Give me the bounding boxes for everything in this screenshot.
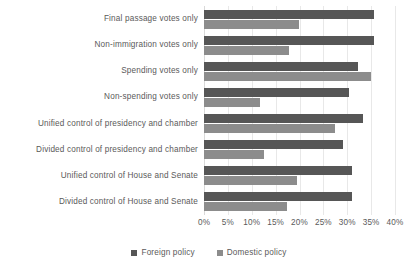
x-tick-label: 5%	[222, 218, 234, 227]
y-axis-category-labels: Final passage votes onlyNon-immigration …	[0, 6, 198, 215]
category-label: Unified control of presidency and chambe…	[0, 111, 198, 137]
bar-domestic-policy	[204, 72, 371, 81]
bar-group	[204, 111, 395, 137]
bar-domestic-policy	[204, 176, 297, 185]
x-tick-label: 30%	[339, 218, 356, 227]
bar-domestic-policy	[204, 202, 287, 211]
category-label: Final passage votes only	[0, 6, 198, 32]
category-label: Non-spending votes only	[0, 84, 198, 110]
bar-domestic-policy	[204, 150, 264, 159]
category-label: Divided control of House and Senate	[0, 189, 198, 215]
bar-foreign-policy	[204, 166, 352, 175]
bar-group	[204, 137, 395, 163]
bar-foreign-policy	[204, 36, 374, 45]
x-tick-label: 10%	[243, 218, 260, 227]
x-axis-tick-labels: 0%5%10%15%20%25%30%35%40%	[204, 218, 395, 232]
legend-swatch-icon	[217, 250, 223, 256]
bar-domestic-policy	[204, 20, 299, 29]
category-label: Spending votes only	[0, 58, 198, 84]
bar-domestic-policy	[204, 98, 260, 107]
x-tick-label: 0%	[198, 218, 210, 227]
x-tick-label: 40%	[387, 218, 404, 227]
category-label: Divided control of presidency and chambe…	[0, 137, 198, 163]
legend-label: Domestic policy	[227, 248, 287, 257]
plot-area	[204, 6, 395, 215]
bar-group	[204, 32, 395, 58]
bar-foreign-policy	[204, 62, 358, 71]
x-tick-label: 25%	[315, 218, 332, 227]
x-tick-label: 15%	[267, 218, 284, 227]
bar-group	[204, 163, 395, 189]
bar-rows	[204, 6, 395, 215]
gridline-40%	[395, 6, 396, 215]
bar-group	[204, 58, 395, 84]
bar-foreign-policy	[204, 140, 343, 149]
bar-foreign-policy	[204, 10, 374, 19]
x-tick-label: 20%	[291, 218, 308, 227]
bar-chart: Final passage votes onlyNon-immigration …	[0, 0, 418, 274]
bar-domestic-policy	[204, 46, 289, 55]
x-tick-label: 35%	[363, 218, 380, 227]
chart-legend: Foreign policyDomestic policy	[0, 248, 418, 257]
bar-foreign-policy	[204, 192, 352, 201]
bar-group	[204, 189, 395, 215]
legend-swatch-icon	[131, 250, 137, 256]
bar-group	[204, 84, 395, 110]
category-label: Non-immigration votes only	[0, 32, 198, 58]
legend-label: Foreign policy	[141, 248, 194, 257]
bar-domestic-policy	[204, 124, 335, 133]
bar-foreign-policy	[204, 88, 349, 97]
legend-item-foreign-policy[interactable]: Foreign policy	[131, 248, 194, 257]
bar-foreign-policy	[204, 114, 363, 123]
bar-group	[204, 6, 395, 32]
category-label: Unified control of House and Senate	[0, 163, 198, 189]
legend-item-domestic-policy[interactable]: Domestic policy	[217, 248, 287, 257]
